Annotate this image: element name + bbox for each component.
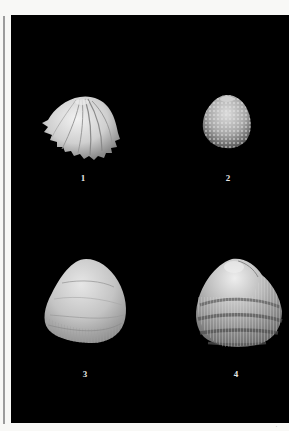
shell-plate: 1 2 (11, 15, 289, 423)
shell-figure-2 (200, 93, 254, 149)
running-header (12, 0, 62, 4)
figure-label-2: 2 (220, 173, 236, 183)
shell-figure-3 (42, 257, 128, 345)
spiny-shell-image (200, 93, 254, 149)
page-mark: ′ (276, 425, 277, 430)
figure-label-1: 1 (75, 173, 91, 183)
smooth-clam-shell-image (42, 257, 128, 345)
shell-figure-1 (40, 93, 122, 161)
margin-line (3, 16, 5, 424)
figure-label-4: 4 (228, 369, 244, 379)
book-page: 1 2 (0, 0, 289, 431)
folded-rib-shell-image (40, 93, 122, 161)
shell-figure-4 (194, 257, 284, 349)
figure-label-3: 3 (77, 369, 93, 379)
banded-cockle-shell-image (194, 257, 284, 349)
